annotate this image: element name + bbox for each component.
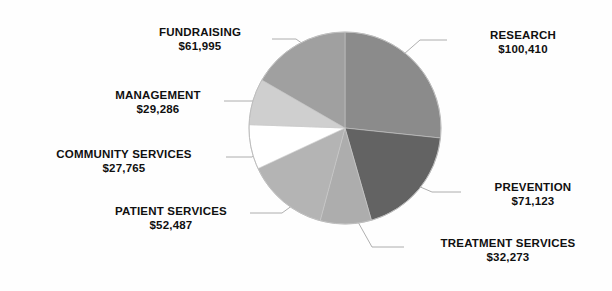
pie-chart-figure: FUNDRAISING $61,995 MANAGEMENT $29,286 C… [0, 0, 612, 291]
slice-label-management: MANAGEMENT $29,286 [78, 89, 238, 116]
slice-label-fundraising-value: $61,995 [120, 40, 280, 54]
slice-label-fundraising-name: FUNDRAISING [120, 26, 280, 40]
leader-line-prevention [418, 186, 461, 192]
slice-label-treatment-services-value: $32,273 [404, 251, 612, 265]
pie-slice-group [249, 32, 441, 224]
slice-label-management-name: MANAGEMENT [78, 89, 238, 103]
slice-label-patient-services-name: PATIENT SERVICES [76, 205, 266, 219]
slice-label-treatment-services: TREATMENT SERVICES $32,273 [404, 237, 612, 264]
slice-label-patient-services: PATIENT SERVICES $52,487 [76, 205, 266, 232]
slice-label-community-services: COMMUNITY SERVICES $27,765 [18, 148, 230, 175]
slice-label-research-name: RESEARCH [448, 29, 598, 43]
pie-slice-research [345, 32, 441, 138]
slice-label-research: RESEARCH $100,410 [448, 29, 598, 56]
leader-line-research [404, 40, 447, 54]
slice-label-treatment-services-name: TREATMENT SERVICES [404, 237, 612, 251]
slice-label-community-services-name: COMMUNITY SERVICES [18, 148, 230, 162]
slice-label-prevention-name: PREVENTION [462, 181, 604, 195]
slice-label-management-value: $29,286 [78, 103, 238, 117]
leader-line-treatment [358, 222, 404, 247]
slice-label-prevention: PREVENTION $71,123 [462, 181, 604, 208]
slice-label-patient-services-value: $52,487 [76, 219, 266, 233]
slice-label-fundraising: FUNDRAISING $61,995 [120, 26, 280, 53]
slice-label-research-value: $100,410 [448, 43, 598, 57]
slice-label-community-services-value: $27,765 [18, 162, 230, 176]
slice-label-prevention-value: $71,123 [462, 195, 604, 209]
